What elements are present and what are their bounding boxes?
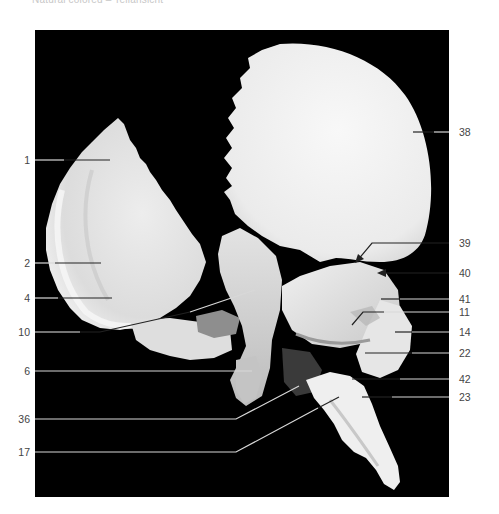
label-40: 40: [459, 267, 489, 279]
label-10: 10: [2, 326, 30, 338]
label-17: 17: [2, 446, 30, 458]
label-22: 22: [459, 347, 489, 359]
label-42: 42: [459, 373, 489, 385]
label-36: 36: [2, 413, 30, 425]
label-41: 41: [459, 293, 489, 305]
label-11: 11: [459, 306, 489, 318]
anatomical-figure: [0, 0, 499, 514]
label-38: 38: [459, 126, 489, 138]
label-6: 6: [2, 365, 30, 377]
label-2: 2: [2, 257, 30, 269]
label-14: 14: [459, 326, 489, 338]
label-39: 39: [459, 237, 489, 249]
label-23: 23: [459, 391, 489, 403]
label-4: 4: [2, 292, 30, 304]
label-1: 1: [2, 154, 30, 166]
